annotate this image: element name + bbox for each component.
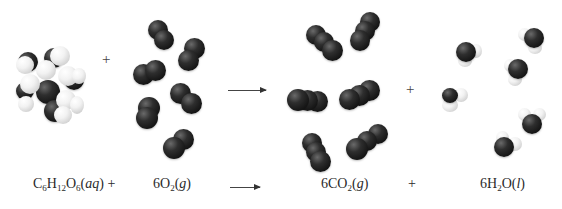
plus-sign-equation: + [408, 176, 416, 192]
o2-molecule [178, 38, 208, 72]
o2-molecule [133, 58, 167, 88]
formula-text: ) [186, 176, 191, 191]
formula-text: H [47, 176, 57, 191]
subscript: 12 [57, 183, 66, 193]
formula-text: ) [364, 176, 369, 191]
o2-molecule [170, 83, 204, 115]
o2-molecule [163, 129, 197, 161]
reaction-arrow-equation [230, 187, 260, 188]
formula-text: C [33, 176, 42, 191]
co2-molecule [287, 88, 331, 114]
h2o-molecule [440, 86, 472, 114]
o2-molecule [148, 20, 178, 52]
formula-text: O( [502, 176, 517, 191]
h2o-molecule [504, 57, 532, 87]
formula-text: 6O [153, 176, 170, 191]
co2-molecule [302, 133, 334, 175]
glucose-formula: C6H12O6(aq) + [33, 176, 115, 192]
water-formula: 6H2O(l) [480, 176, 525, 192]
h2o-molecule [492, 131, 524, 161]
o2-molecule [136, 97, 164, 131]
co2-molecule [339, 80, 383, 112]
reaction-arrow-models [228, 90, 266, 91]
formula-text: 6CO [321, 176, 347, 191]
formula-text: ) + [99, 176, 115, 191]
formula-text: O [66, 176, 76, 191]
formula-text: 6H [480, 176, 497, 191]
h2o-molecule [518, 26, 548, 54]
plus-sign-products: + [406, 81, 414, 98]
co2-formula: 6CO2(g) [321, 176, 368, 192]
plus-sign-reactants: + [102, 51, 110, 68]
formula-text: ) [520, 176, 525, 191]
h2o-molecule [454, 40, 484, 68]
co2-molecule [306, 25, 346, 63]
state-symbol: aq [85, 176, 99, 191]
state-symbol: g [357, 176, 364, 191]
oxygen-formula: 6O2(g) [153, 176, 191, 192]
glucose-molecule-model [14, 44, 86, 126]
co2-molecule [350, 12, 380, 54]
co2-molecule [346, 124, 390, 162]
